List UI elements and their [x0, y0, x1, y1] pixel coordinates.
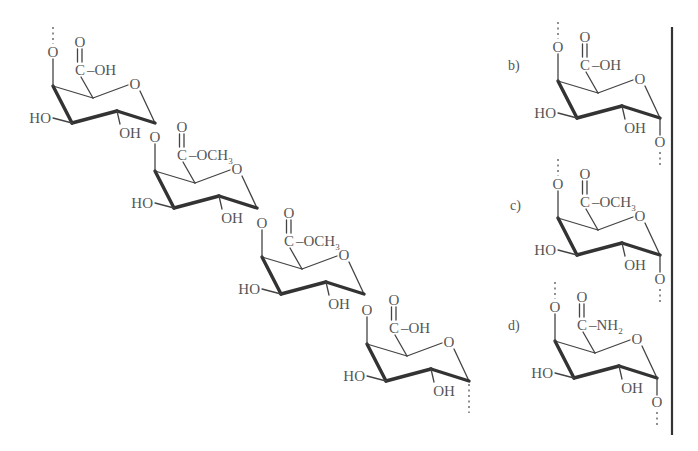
linkage-oxygen-top: O [553, 176, 564, 192]
carbonyl-oxygen: O [580, 29, 591, 45]
ring-oxygen: O [130, 76, 141, 92]
chain-residue-1: OOCO–OHHOOH [29, 27, 155, 141]
linkage-oxygen-top: O [362, 302, 373, 318]
substituent-group: –NH2 [588, 317, 623, 336]
variant-panel-c: c)OOCO–OCH3HOOHO [510, 159, 666, 304]
carboxyl-carbon: C [580, 57, 590, 73]
hydroxyl-c2: OH [328, 296, 350, 312]
ring-oxygen: O [232, 161, 243, 177]
linkage-oxygen-top: O [550, 299, 561, 315]
sugar-residue: OOCO–OCH3HOOHO [534, 159, 665, 304]
ring-oxygen: O [339, 247, 350, 263]
carbonyl-oxygen: O [577, 289, 588, 305]
carboxyl-carbon: C [577, 317, 587, 333]
panel-label: d) [508, 318, 520, 334]
substituent-group: –OH [591, 57, 621, 73]
carbonyl-oxygen: O [75, 34, 86, 50]
chain-residue-4: OOCO–OHHOOH [343, 292, 469, 413]
hydroxyl-c2: OH [621, 380, 643, 396]
hydroxyl-c3: HO [238, 281, 260, 297]
ring-oxygen: O [632, 331, 643, 347]
substituent-group: –OH [400, 320, 430, 336]
residue-variants: b)OOCO–OHHOOHOc)OOCO–OCH3HOOHOd)OOCO–NH2… [508, 22, 666, 427]
galacturonan-structure-figure: OOCO–OHHOOHOOCO–OCH3HOOHOOCO–OCH3HOOHOOC… [0, 0, 698, 451]
linkage-oxygen-bottom: O [655, 134, 666, 150]
variant-panel-b: b)OOCO–OHHOOHO [508, 22, 666, 167]
hydroxyl-c2: OH [221, 210, 243, 226]
substituent-group: –OCH3 [591, 194, 636, 213]
carbonyl-oxygen: O [177, 119, 188, 135]
ring-oxygen: O [635, 208, 646, 224]
linkage-oxygen-top: O [150, 129, 161, 145]
hydroxyl-c2: OH [624, 257, 646, 273]
linkage-oxygen-top: O [553, 39, 564, 55]
substituent-group: –OCH3 [188, 147, 233, 166]
substituent-group: –OH [86, 62, 116, 78]
sugar-residue: OOCO–OHHOOHO [534, 22, 665, 167]
hydroxyl-c2: OH [119, 125, 141, 141]
variant-panel-d: d)OOCO–NH2HOOHO [508, 282, 663, 427]
sugar-residue: OOCO–NH2HOOHO [531, 282, 662, 427]
hydroxyl-c3: HO [531, 365, 553, 381]
linkage-oxygen-top: O [257, 215, 268, 231]
carboxyl-carbon: C [389, 320, 399, 336]
hydroxyl-c3: HO [534, 105, 556, 121]
carbonyl-oxygen: O [580, 166, 591, 182]
hydroxyl-c3: HO [534, 242, 556, 258]
hydroxyl-c2: OH [624, 120, 646, 136]
chain-residue-2: OOCO–OCH3HOOH [131, 119, 257, 226]
carboxyl-carbon: C [580, 194, 590, 210]
substituent-group: –OCH3 [295, 233, 340, 252]
hydroxyl-c3: HO [343, 368, 365, 384]
polygalacturonan-chain: OOCO–OHHOOHOOCO–OCH3HOOHOOCO–OCH3HOOHOOC… [29, 27, 469, 413]
carbonyl-oxygen: O [284, 205, 295, 221]
hydroxyl-c3: HO [131, 195, 153, 211]
structure-canvas: OOCO–OHHOOHOOCO–OCH3HOOHOOCO–OCH3HOOHOOC… [0, 0, 698, 451]
linkage-oxygen-bottom: O [652, 394, 663, 410]
linkage-oxygen-top: O [48, 44, 59, 60]
ring-oxygen: O [635, 71, 646, 87]
panel-label: c) [510, 198, 521, 214]
carboxyl-carbon: C [284, 233, 294, 249]
panel-label: b) [508, 58, 520, 74]
carbonyl-oxygen: O [389, 292, 400, 308]
linkage-oxygen-bottom: O [655, 271, 666, 287]
hydroxyl-c3: HO [29, 110, 51, 126]
ring-oxygen: O [444, 334, 455, 350]
hydroxyl-c2: OH [433, 383, 455, 399]
chain-residue-3: OOCO–OCH3HOOH [238, 205, 364, 312]
carboxyl-carbon: C [75, 62, 85, 78]
carboxyl-carbon: C [177, 147, 187, 163]
